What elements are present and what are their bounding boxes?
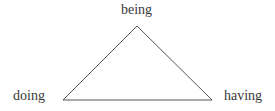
vertex-label-being: being: [121, 3, 152, 17]
triangle-outline: [63, 26, 212, 100]
vertex-label-having: having: [224, 89, 262, 103]
vertex-label-doing: doing: [13, 89, 45, 103]
triangle-diagram: being doing having: [0, 0, 275, 111]
